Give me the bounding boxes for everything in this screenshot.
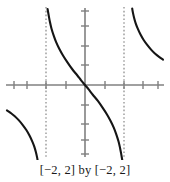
plot-area	[0, 0, 170, 160]
graph-figure: [−2, 2] by [−2, 2]	[0, 0, 170, 182]
plot-svg	[0, 0, 170, 160]
graph-caption: [−2, 2] by [−2, 2]	[0, 160, 170, 182]
